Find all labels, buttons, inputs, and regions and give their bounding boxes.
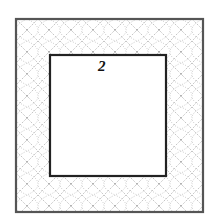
block-label: 2 bbox=[98, 58, 106, 75]
border-pattern bbox=[0, 0, 213, 220]
inner-frame bbox=[50, 55, 166, 176]
